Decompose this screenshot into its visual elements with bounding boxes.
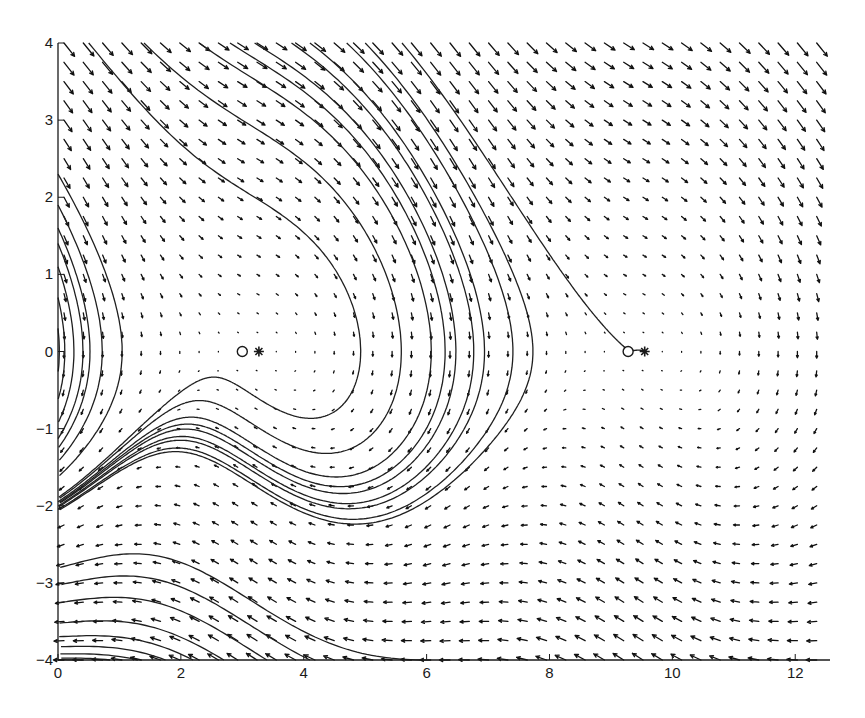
trajectory-curve bbox=[29, 43, 361, 515]
trajectory-curve bbox=[29, 43, 513, 524]
trajectory-curve bbox=[28, 43, 485, 523]
x-axis-ticks: 024681012 bbox=[54, 654, 804, 681]
x-tick-label: 8 bbox=[545, 664, 553, 681]
trajectories bbox=[27, 43, 645, 660]
x-tick-label: 12 bbox=[787, 664, 804, 681]
y-tick-label: −4 bbox=[36, 651, 53, 668]
trajectory-curve bbox=[29, 174, 122, 499]
star-marker bbox=[254, 347, 264, 357]
trajectory-curve bbox=[28, 576, 310, 660]
x-tick-label: 2 bbox=[177, 664, 185, 681]
vector-field bbox=[53, 43, 827, 662]
x-tick-label: 4 bbox=[300, 664, 308, 681]
y-tick-label: −3 bbox=[36, 574, 53, 591]
circle-marker bbox=[237, 347, 247, 357]
phase-portrait-figure: 024681012 −4−3−2−101234 bbox=[0, 0, 865, 718]
star-marker bbox=[640, 347, 650, 357]
y-tick-label: 2 bbox=[45, 188, 53, 205]
axes: 024681012 −4−3−2−101234 bbox=[36, 34, 830, 681]
quiver-arrows bbox=[53, 43, 827, 662]
trajectory-curve bbox=[402, 43, 645, 351]
y-tick-label: 3 bbox=[45, 111, 53, 128]
circle-marker bbox=[623, 347, 633, 357]
trajectory-curve bbox=[30, 597, 267, 660]
trajectory-curve bbox=[29, 554, 421, 660]
x-tick-label: 6 bbox=[422, 664, 430, 681]
y-tick-label: 0 bbox=[45, 343, 53, 360]
y-axis-ticks: −4−3−2−101234 bbox=[36, 34, 64, 668]
y-tick-label: 1 bbox=[45, 265, 53, 282]
y-tick-label: 4 bbox=[45, 34, 53, 51]
y-tick-label: −1 bbox=[36, 420, 53, 437]
x-tick-label: 0 bbox=[54, 664, 62, 681]
y-tick-label: −2 bbox=[36, 497, 53, 514]
x-tick-label: 10 bbox=[664, 664, 681, 681]
equilibrium-markers bbox=[237, 347, 649, 357]
